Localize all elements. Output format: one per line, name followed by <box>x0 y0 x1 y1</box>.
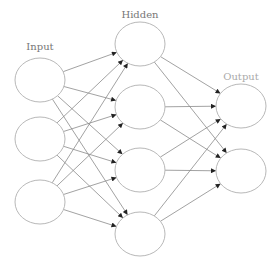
input-node-i3 <box>15 180 65 224</box>
edge-i2-h1 <box>57 60 123 123</box>
hidden-node-h2 <box>115 85 165 129</box>
layer-nodes <box>15 22 266 256</box>
output-node-o1 <box>216 84 266 128</box>
edge-h1-o1 <box>161 57 221 94</box>
hidden-layer-label: Hidden <box>121 9 159 20</box>
edge-i3-h2 <box>57 123 123 186</box>
edge-i2-h4 <box>57 155 123 218</box>
edge-h2-o2 <box>160 120 220 158</box>
edge-i1-h3 <box>58 96 123 155</box>
hidden-node-h4 <box>115 212 165 256</box>
input-node-i2 <box>15 117 65 161</box>
hidden-node-h3 <box>115 148 165 192</box>
input-layer-label: Input <box>26 41 53 52</box>
edge-i3-h4 <box>64 210 117 227</box>
connection-edges <box>52 52 227 226</box>
edge-h2-o1 <box>165 106 216 107</box>
edge-h3-o1 <box>160 119 220 157</box>
edge-h4-o2 <box>160 184 220 222</box>
hidden-node-h1 <box>115 22 165 66</box>
output-layer-label: Output <box>223 71 259 82</box>
edge-i1-h1 <box>63 52 117 71</box>
input-node-i1 <box>15 58 65 102</box>
neural-network-diagram: Input Hidden Output <box>0 0 279 267</box>
output-node-o2 <box>216 149 266 193</box>
